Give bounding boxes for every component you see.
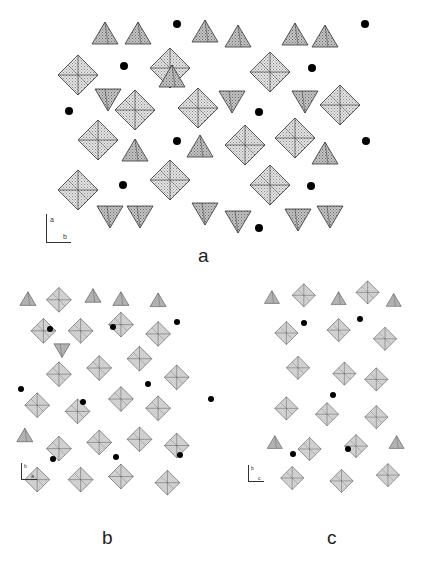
cation-dots-a xyxy=(65,20,370,232)
axis-label-horizontal: c xyxy=(258,475,261,481)
axis-indicator-c: b c xyxy=(248,465,266,485)
axis-label-vertical: a xyxy=(50,216,54,223)
panel-label-a: a xyxy=(198,245,209,267)
panel-c: b c c xyxy=(240,275,422,500)
cation-dots-b xyxy=(18,319,214,462)
cation-dots-c xyxy=(290,316,363,457)
panel-b: b a b xyxy=(0,275,240,500)
panel-label-b: b xyxy=(102,527,113,549)
axis-indicator-a: a b xyxy=(46,214,72,244)
axis-label-horizontal: a xyxy=(31,473,34,479)
axis-indicator-b: b a xyxy=(21,463,39,483)
panel-a: a b a xyxy=(0,0,422,270)
crystal-structure-c xyxy=(240,275,420,505)
axis-label-horizontal: b xyxy=(63,233,67,240)
crystal-structure-a xyxy=(0,0,422,250)
panel-label-c: c xyxy=(327,527,337,549)
axis-label-vertical: b xyxy=(251,465,254,471)
axis-label-vertical: b xyxy=(24,463,27,469)
